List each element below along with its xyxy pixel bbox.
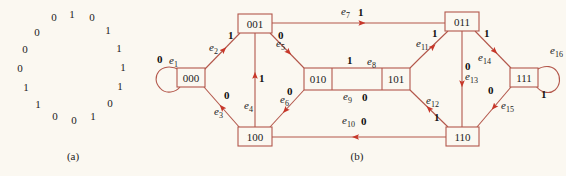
edge-weight-e10: 0 bbox=[361, 115, 367, 127]
edge-label-e4: e4 bbox=[244, 99, 253, 114]
node-label-111: 111 bbox=[516, 72, 532, 84]
edge-weight-e5: 0 bbox=[278, 29, 284, 41]
edge-weight-e2: 1 bbox=[228, 29, 234, 41]
edge-e1 bbox=[156, 67, 180, 92]
node-label-110: 110 bbox=[454, 131, 471, 143]
edge-label-e11: e11 bbox=[416, 37, 429, 52]
node-label-001: 001 bbox=[247, 18, 264, 30]
edge-weight-e15: 0 bbox=[488, 84, 494, 96]
edge-e16 bbox=[536, 67, 560, 93]
edge-label-e10: e10 bbox=[342, 114, 355, 129]
node-label-011: 011 bbox=[454, 16, 470, 28]
edge-labels: e10e21e30e41e50e60e71e81e90e100e111e121e… bbox=[157, 5, 563, 129]
node-label-100: 100 bbox=[247, 131, 264, 143]
edge-weight-e16: 1 bbox=[541, 88, 547, 100]
edge-weight-e13: 0 bbox=[465, 60, 471, 72]
edge-label-e14: e14 bbox=[478, 51, 491, 66]
figure: 1011110100110000 (a) 0000010101010111001… bbox=[0, 0, 566, 176]
edge-label-e16: e16 bbox=[550, 44, 563, 59]
node-label-101: 101 bbox=[388, 73, 405, 85]
edge-weight-e8: 1 bbox=[347, 54, 353, 66]
edge-weight-e1: 0 bbox=[157, 53, 163, 65]
panel-b-caption: (b) bbox=[351, 150, 364, 162]
edge-label-e13: e13 bbox=[465, 70, 478, 85]
edge-label-e9: e9 bbox=[343, 90, 352, 105]
node-label-010: 010 bbox=[310, 73, 327, 85]
edge-weight-e7: 1 bbox=[358, 6, 364, 18]
edge-label-e15: e15 bbox=[501, 99, 514, 114]
edge-weight-e4: 1 bbox=[259, 72, 265, 84]
edge-weight-e12: 1 bbox=[434, 111, 440, 123]
node-label-000: 000 bbox=[183, 72, 200, 84]
panel-b-state-graph: 000001010101011100110111 e10e21e30e41e50… bbox=[0, 0, 566, 176]
edge-weight-e6: 0 bbox=[287, 85, 293, 97]
edge-weight-e3: 0 bbox=[224, 89, 230, 101]
edge-weight-e11: 1 bbox=[432, 27, 438, 39]
edge-label-e2: e2 bbox=[209, 41, 218, 56]
edge-weight-e9: 0 bbox=[362, 91, 368, 103]
edge-weight-e14: 1 bbox=[484, 27, 490, 39]
edge-label-e7: e7 bbox=[341, 5, 350, 20]
